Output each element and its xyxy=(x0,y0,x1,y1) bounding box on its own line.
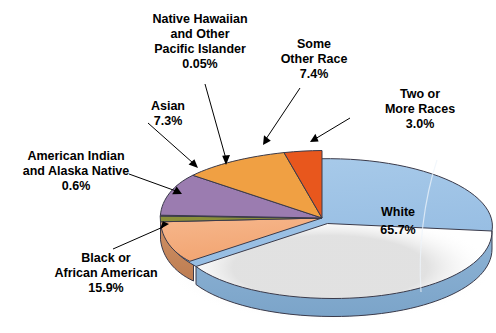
label-asian-line1: Asian xyxy=(151,99,185,113)
pie-chart-figure: Native Hawaiian and Other Pacific Island… xyxy=(0,0,496,333)
label-two-or-more-races: Two or More Races 3.0% xyxy=(385,87,455,131)
label-white-line1: White xyxy=(381,205,415,219)
label-some-other-race-line2: Other Race xyxy=(281,52,348,66)
arrowhead-some-other-race xyxy=(263,135,271,145)
label-white-value: 65.7% xyxy=(380,223,415,237)
leader-line-some-other-race xyxy=(266,88,300,139)
leader-line-black-african-american xyxy=(113,227,163,249)
label-black-line2: African American xyxy=(54,266,157,280)
label-black-african-american: Black or African American 15.9% xyxy=(54,251,157,295)
leader-line-two-or-more-races xyxy=(315,118,350,139)
label-some-other-race: Some Other Race 7.4% xyxy=(281,37,348,81)
leader-line-asian xyxy=(148,123,193,163)
label-asian-value: 7.3% xyxy=(154,114,183,128)
label-native-hawaiian-line2: and Other xyxy=(170,27,229,41)
label-american-indian-alaska-native: American Indian and Alaska Native 0.6% xyxy=(23,149,130,193)
label-native-hawaiian-line1: Native Hawaiian xyxy=(152,12,247,26)
label-american-indian-value: 0.6% xyxy=(62,179,91,193)
label-black-value: 15.9% xyxy=(88,281,123,295)
leader-line-native-hawaiian xyxy=(205,84,226,159)
label-native-hawaiian-value: 0.05% xyxy=(182,57,217,71)
label-native-hawaiian-line3: Pacific Islander xyxy=(154,42,246,56)
leader-line-american-indian xyxy=(129,174,176,191)
label-two-or-more-races-value: 3.0% xyxy=(406,117,435,131)
label-black-line1: Black or xyxy=(81,251,130,265)
label-native-hawaiian-pacific-islander: Native Hawaiian and Other Pacific Island… xyxy=(152,12,247,71)
label-american-indian-line2: and Alaska Native xyxy=(23,164,130,178)
label-two-or-more-races-line1: Two or xyxy=(400,87,440,101)
label-some-other-race-line1: Some xyxy=(297,37,331,51)
label-asian: Asian 7.3% xyxy=(151,99,185,128)
label-american-indian-line1: American Indian xyxy=(27,149,124,163)
pie-chart-svg: Native Hawaiian and Other Pacific Island… xyxy=(0,0,496,333)
label-two-or-more-races-line2: More Races xyxy=(385,102,455,116)
label-some-other-race-value: 7.4% xyxy=(300,67,329,81)
